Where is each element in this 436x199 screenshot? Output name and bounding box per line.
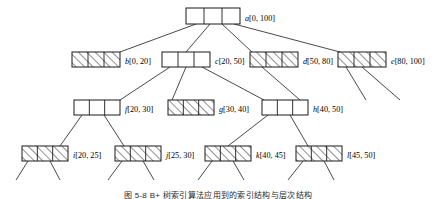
tree-edge xyxy=(104,115,124,146)
figure-container: a[0, 100]b[0, 20]c[20, 50]d[50, 80]e[80,… xyxy=(0,0,436,199)
tree-edge xyxy=(120,24,196,52)
node-label-g: g[30, 40] xyxy=(219,105,249,114)
node-label-f: f[20, 30] xyxy=(125,105,153,114)
node-box-k[interactable] xyxy=(205,146,251,161)
node-label-e: e[80, 100] xyxy=(391,57,425,66)
tree-edge xyxy=(362,67,400,100)
node-label-k: k[40, 45] xyxy=(256,151,286,160)
tree-node-a[interactable]: a[0, 100] xyxy=(186,8,275,24)
tree-edge xyxy=(324,161,334,180)
node-label-a: a[0, 100] xyxy=(245,14,275,23)
tree-node-h[interactable]: h[40, 50] xyxy=(262,100,343,115)
node-box-a[interactable] xyxy=(186,8,240,24)
node-box-b[interactable] xyxy=(72,52,120,67)
tree-edge xyxy=(346,67,366,100)
node-label-d: d[50, 80] xyxy=(303,57,333,66)
tree-edge xyxy=(233,161,244,180)
tree-edge xyxy=(172,67,186,100)
node-box-e[interactable] xyxy=(338,52,386,67)
tree-edge xyxy=(186,24,210,52)
tree-node-e[interactable]: e[80, 100] xyxy=(338,52,425,67)
tree-edge xyxy=(60,115,82,146)
tree-node-g[interactable]: g[30, 40] xyxy=(168,100,249,115)
node-label-h: h[40, 50] xyxy=(313,105,343,114)
tree-edge xyxy=(262,67,300,100)
node-box-d[interactable] xyxy=(250,52,298,67)
node-box-g[interactable] xyxy=(168,100,214,115)
tree-edge xyxy=(222,24,252,52)
node-label-l: l[45, 50] xyxy=(347,151,375,160)
tree-edge xyxy=(234,24,340,52)
tree-edge xyxy=(288,161,303,180)
node-box-i[interactable] xyxy=(22,146,68,161)
node-box-h[interactable] xyxy=(262,100,308,115)
node-label-b: b[0, 20] xyxy=(125,57,151,66)
tree-node-k[interactable]: k[40, 45] xyxy=(205,146,286,161)
tree-edge xyxy=(143,161,154,180)
tree-node-j[interactable]: j[25, 30] xyxy=(115,146,194,161)
tree-node-c[interactable]: c[20, 50] xyxy=(162,52,245,67)
tree-node-b[interactable]: b[0, 20] xyxy=(72,52,151,67)
node-box-l[interactable] xyxy=(296,146,342,161)
figure-caption: 图 5-8 B+ 树索引算法应用到的索引结构与层次结构 xyxy=(0,189,436,199)
node-label-c: c[20, 50] xyxy=(215,57,245,66)
node-label-i: i[20, 25] xyxy=(73,151,101,160)
tree-edge xyxy=(228,115,268,146)
tree-edge xyxy=(120,67,170,100)
tree-edge xyxy=(108,161,122,180)
tree-node-i[interactable]: i[20, 25] xyxy=(22,146,101,161)
node-box-f[interactable] xyxy=(74,100,120,115)
tree-edge xyxy=(50,161,60,180)
nodes-layer: a[0, 100]b[0, 20]c[20, 50]d[50, 80]e[80,… xyxy=(22,8,425,161)
tree-diagram: a[0, 100]b[0, 20]c[20, 50]d[50, 80]e[80,… xyxy=(0,0,436,199)
tree-node-l[interactable]: l[45, 50] xyxy=(296,146,375,161)
tree-edge xyxy=(202,67,264,100)
tree-node-d[interactable]: d[50, 80] xyxy=(250,52,333,67)
tree-edge xyxy=(198,161,212,180)
tree-node-f[interactable]: f[20, 30] xyxy=(74,100,153,115)
tree-edge xyxy=(16,161,28,180)
node-label-j: j[25, 30] xyxy=(165,151,194,160)
node-box-c[interactable] xyxy=(162,52,210,67)
tree-edge xyxy=(290,115,308,146)
node-box-j[interactable] xyxy=(115,146,161,161)
